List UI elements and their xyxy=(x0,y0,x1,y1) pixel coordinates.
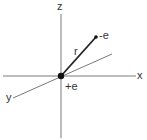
electron-charge-label: -e xyxy=(99,30,109,41)
x-axis-label: x xyxy=(137,70,143,81)
coordinate-diagram xyxy=(0,0,147,140)
r-vector-label: r xyxy=(74,46,78,57)
electron-dot xyxy=(94,35,98,39)
z-axis-label: z xyxy=(57,1,63,12)
r-vector xyxy=(61,37,96,76)
proton-dot xyxy=(58,73,64,79)
proton-charge-label: +e xyxy=(65,81,78,92)
y-axis-label: y xyxy=(6,92,12,103)
